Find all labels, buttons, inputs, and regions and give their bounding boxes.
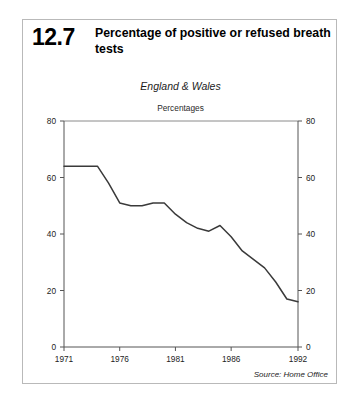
chart-figure: 12.7 Percentage of positive or refused b… (22, 19, 337, 384)
data-line-percentage-of-positive-or-refused-breath-tests (64, 166, 298, 302)
y-tick-label-right: 80 (306, 116, 316, 126)
y-tick-label-left: 80 (47, 116, 57, 126)
x-tick-label: 1981 (166, 354, 185, 364)
y-tick-label-left: 40 (47, 229, 57, 239)
y-tick-label-right: 20 (306, 286, 316, 296)
x-tick-label: 1976 (110, 354, 129, 364)
chart-series-group (64, 166, 298, 302)
y-tick-label-right: 0 (306, 342, 311, 352)
y-tick-label-left: 60 (47, 173, 57, 183)
y-tick-label-right: 40 (306, 229, 316, 239)
x-tick-label: 1986 (222, 354, 241, 364)
chart-number: 12.7 (32, 25, 75, 50)
chart-frame (64, 121, 298, 347)
line-chart-svg: 00202040406060808019711976198119861992 (23, 76, 338, 385)
chart-title: Percentage of positive or refused breath… (95, 26, 331, 57)
y-tick-label-left: 20 (47, 286, 57, 296)
figure-header: 12.7 Percentage of positive or refused b… (23, 20, 338, 76)
y-tick-label-left: 0 (51, 342, 56, 352)
x-tick-label: 1971 (55, 354, 74, 364)
x-tick-label: 1992 (289, 354, 308, 364)
plot-area: England & Wales Percentages 002020404060… (23, 76, 338, 385)
source-label: Source: Home Office (254, 370, 328, 379)
chart-ticks (60, 121, 302, 351)
y-tick-label-right: 60 (306, 173, 316, 183)
chart-tick-labels: 00202040406060808019711976198119861992 (47, 116, 316, 364)
